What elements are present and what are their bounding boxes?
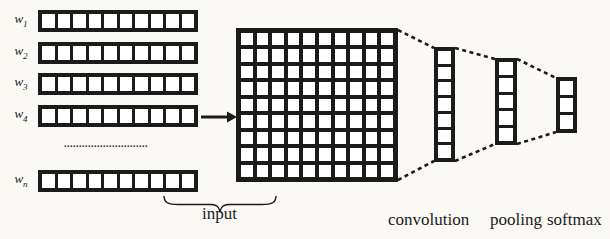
matrix-cell [241,66,253,78]
pooling-output-cell [499,78,513,91]
pooling-output [495,58,517,145]
word-cell [135,14,148,28]
word-cell [104,77,117,91]
word-label: w4 [8,107,34,124]
softmax-output-cell [560,81,573,95]
matrix-cell [257,82,269,94]
matrix-cell [366,115,378,127]
matrix-cell [288,99,300,111]
matrix-cell [288,165,300,177]
word-cell [104,174,117,188]
matrix-cell [366,82,378,94]
matrix-cell [303,99,315,111]
word-cell [135,109,148,123]
matrix-cell [272,33,284,45]
word-cell [166,46,179,60]
matrix-cell [257,66,269,78]
matrix-cell [303,148,315,160]
matrix-cell [319,132,331,144]
word-cell [104,46,117,60]
word-cell [73,14,86,28]
matrix-cell [272,148,284,160]
word-vector [38,73,198,95]
matrix-cell [257,115,269,127]
matrix-cell [335,148,347,160]
matrix-cell [303,132,315,144]
word-label-subscript: 1 [23,19,28,29]
word-label: w3 [8,75,34,92]
word-cell [42,77,55,91]
matrix-cell [350,148,362,160]
pooling-output-cell [499,95,513,108]
matrix-cell [303,66,315,78]
convolution-output-cell [438,98,451,111]
convolution-output-cell [438,67,451,80]
matrix-cell [335,99,347,111]
word-cell [166,77,179,91]
matrix-cell [366,66,378,78]
word-label-subscript: 2 [23,51,28,61]
word-cell [182,109,195,123]
matrix-cell [319,49,331,61]
converge-line-softmax-bottom [517,132,556,144]
matrix-cell [319,115,331,127]
matrix-cell [350,33,362,45]
matrix-cell [303,82,315,94]
word-cell [42,174,55,188]
matrix-cell [350,165,362,177]
matrix-cell [257,132,269,144]
matrix-cell [366,148,378,160]
word-cell [89,77,102,91]
word-cell [120,14,133,28]
word-cell [42,109,55,123]
matrix-cell [257,165,269,177]
matrix-cell [319,66,331,78]
matrix-cell [319,165,331,177]
matrix-cell [381,165,393,177]
word-cell [151,46,164,60]
matrix-cell [272,99,284,111]
pooling-output-cell [499,111,513,124]
word-label-subscript: 4 [23,114,28,124]
word-cell [120,77,133,91]
diagram-canvas: w1w2w3w4wn ............................ … [0,0,610,239]
word-label-subscript: n [23,179,28,189]
word-label: wn [8,172,34,189]
matrix-cell [366,165,378,177]
word-cell [58,77,71,91]
word-cell [166,109,179,123]
matrix-cell [335,82,347,94]
input-matrix [236,28,398,182]
matrix-cell [381,49,393,61]
matrix-cell [288,115,300,127]
word-cell [182,174,195,188]
convolution-label: convolution [388,211,469,230]
word-cell [58,109,71,123]
matrix-cell [335,66,347,78]
pooling-label: pooling [490,211,542,230]
word-cell [42,14,55,28]
softmax-output-cell [560,98,573,112]
word-cell [151,109,164,123]
matrix-cell [381,99,393,111]
word-cell [120,46,133,60]
word-cell [73,46,86,60]
word-cell [182,46,195,60]
word-cell [58,174,71,188]
matrix-cell [366,99,378,111]
word-cell [135,77,148,91]
word-cell [151,77,164,91]
matrix-cell [381,148,393,160]
matrix-cell [241,132,253,144]
matrix-cell [241,165,253,177]
word-cell [104,14,117,28]
matrix-cell [319,99,331,111]
matrix-cell [288,33,300,45]
word-label-subscript: 3 [23,82,28,92]
word-vector [38,105,198,127]
matrix-cell [381,66,393,78]
matrix-cell [335,165,347,177]
matrix-cell [257,148,269,160]
word-vector [38,42,198,64]
word-cell [120,109,133,123]
